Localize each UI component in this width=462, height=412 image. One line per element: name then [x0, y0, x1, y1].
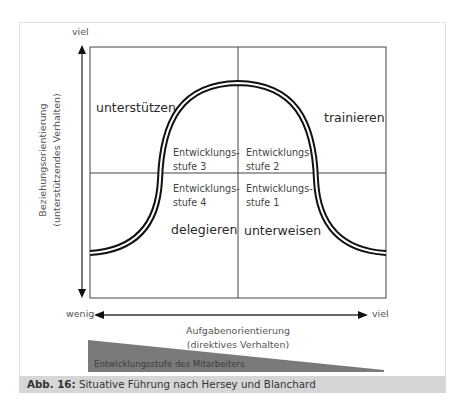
stage-label-1: Entwicklungs- stufe 1: [246, 182, 313, 210]
style-label-unterweisen: unterweisen: [244, 223, 321, 238]
caption-text: Situative Führung nach Hersey und Blanch…: [79, 378, 316, 390]
style-label-delegieren: delegieren: [171, 222, 237, 237]
figure-caption: Abb. 16: Situative Führung nach Hersey u…: [19, 376, 446, 393]
x-axis-title: Aufgabenorientierung (direktives Verhalt…: [168, 324, 308, 352]
y-axis-title-line2: (unterstützendes Verhalten): [50, 85, 64, 235]
x-axis-right-label: viel: [372, 308, 389, 319]
wedge-label: Entwicklungsstufe des Mitarbeiters: [94, 359, 245, 369]
style-label-unterstuetzen: unterstützen: [96, 100, 176, 115]
x-axis-arrow: [94, 311, 368, 319]
x-axis-title-line1: Aufgabenorientierung: [168, 324, 308, 338]
y-axis-title: Beziehungsorientierung (unterstützendes …: [36, 85, 64, 235]
stage-label-3: Entwicklungs- stufe 3: [173, 146, 240, 174]
x-axis-left-label: wenig: [66, 308, 94, 319]
stage-label-2: Entwicklungs- stufe 2: [246, 146, 313, 174]
stage-label-4: Entwicklungs- stufe 4: [173, 182, 240, 210]
x-axis-title-line2: (direktives Verhalten): [168, 338, 308, 352]
y-axis-arrow: [78, 45, 86, 298]
style-label-trainieren: trainieren: [324, 110, 385, 125]
y-axis-title-line1: Beziehungsorientierung: [36, 85, 50, 235]
caption-prefix: Abb. 16:: [27, 378, 76, 390]
y-axis-top-label: viel: [72, 26, 89, 37]
